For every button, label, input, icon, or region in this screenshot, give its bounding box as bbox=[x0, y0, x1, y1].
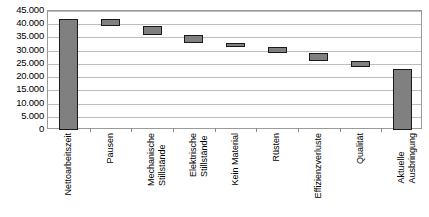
y-tick-label: 15.000 bbox=[16, 84, 44, 94]
x-tick-label-line: Ausbringung bbox=[407, 133, 418, 184]
y-tick-label: 40.000 bbox=[16, 18, 44, 28]
x-tick-label-line: Effizienzverluste bbox=[313, 133, 323, 198]
bar-decrease bbox=[351, 61, 370, 66]
x-tick-label-line: Pausen bbox=[105, 133, 115, 164]
bar-decrease bbox=[309, 53, 328, 61]
y-tick-label: 20.000 bbox=[16, 71, 44, 81]
x-tick-label: AktuelleAusbringung bbox=[396, 133, 417, 184]
x-tick-label: Nettoarbeitszeit bbox=[63, 133, 74, 196]
x-tick-label: Rüsten bbox=[271, 133, 282, 162]
bar-decrease bbox=[143, 26, 162, 35]
x-axis: NettoarbeitszeitPausenMechanischeStillst… bbox=[47, 131, 422, 217]
y-tick-label: 5.000 bbox=[21, 111, 44, 121]
y-tick-label: 25.000 bbox=[16, 58, 44, 68]
gridline bbox=[48, 51, 421, 52]
bar-decrease bbox=[184, 35, 203, 43]
y-tick-label: 0 bbox=[39, 124, 44, 134]
gridline bbox=[48, 77, 421, 78]
x-tick-label: Kein Material bbox=[230, 133, 241, 186]
y-tick-label: 35.000 bbox=[16, 31, 44, 41]
bar-decrease bbox=[226, 43, 245, 47]
y-tick-label: 45.000 bbox=[16, 5, 44, 15]
x-tick-label-line: Qualität bbox=[355, 133, 365, 164]
gridline bbox=[48, 117, 421, 118]
plot-area bbox=[47, 10, 422, 129]
x-tick-label: Effizienzverluste bbox=[313, 133, 324, 198]
bar-total bbox=[393, 69, 412, 130]
gridline bbox=[48, 90, 421, 91]
x-tick-label-line: Nettoarbeitszeit bbox=[63, 133, 73, 196]
x-tick-label-line: Stillstände bbox=[198, 133, 209, 177]
x-tick-label: MechanischeStillstände bbox=[146, 133, 167, 186]
x-tick-label-line: Aktuelle bbox=[396, 152, 406, 184]
x-tick-label-line: Kein Material bbox=[230, 133, 240, 186]
x-tick-label-line: Stillstände bbox=[157, 133, 168, 186]
y-tick-label: 30.000 bbox=[16, 45, 44, 55]
x-tick-label: Pausen bbox=[105, 133, 116, 164]
x-tick-label: Qualität bbox=[355, 133, 366, 164]
x-tick-label-line: Elektrische bbox=[188, 133, 198, 177]
x-tick-label-line: Mechanische bbox=[146, 133, 156, 186]
bar-decrease bbox=[101, 19, 120, 26]
y-tick-label: 10.000 bbox=[16, 98, 44, 108]
gridline bbox=[48, 11, 421, 12]
bar-total bbox=[59, 19, 78, 130]
bar-decrease bbox=[268, 47, 287, 54]
x-tick-label: ElektrischeStillstände bbox=[188, 133, 209, 177]
gridline bbox=[48, 104, 421, 105]
x-tick-label-line: Rüsten bbox=[271, 133, 281, 162]
y-axis: 45.00040.00035.00030.00025.00020.00015.0… bbox=[0, 10, 44, 129]
gridline bbox=[48, 37, 421, 38]
waterfall-chart: 45.00040.00035.00030.00025.00020.00015.0… bbox=[0, 0, 429, 217]
